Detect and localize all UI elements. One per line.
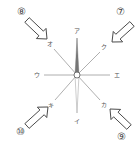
direction-label-nw: オ [47,41,53,47]
direction-line-nw [54,49,77,75]
arrow-8-number: ⑧ [17,7,26,17]
direction-label-w: ウ [34,72,40,78]
arrow-10-number: ⑩ [16,127,25,137]
direction-label-se: カ [101,102,107,108]
direction-line-ne [77,52,100,75]
arrow-9-number: ⑨ [117,132,126,142]
direction-label-sw: キ [48,102,54,108]
arrow-9-shape [105,104,134,132]
direction-label-s: イ [74,118,80,124]
arrow-7-number: ⑦ [116,7,125,17]
pivot-circle [74,72,80,78]
direction-label-e: エ [114,72,120,78]
arrow-7-shape [107,19,136,47]
compass-diagram: アイウエオクキカ⑧⑦⑩⑨ [0,0,140,156]
direction-line-sw [55,75,77,100]
needle-south [75,75,79,113]
direction-line-se [77,75,100,100]
direction-label-ne: ク [101,44,107,50]
direction-label-n: ア [74,28,80,34]
